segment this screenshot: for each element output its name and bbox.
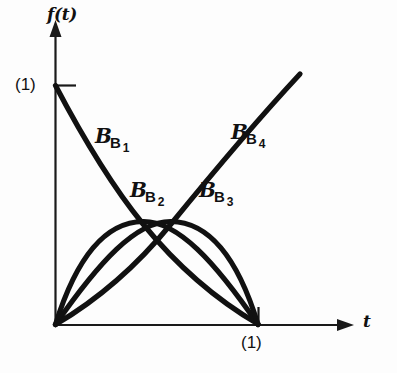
x-axis-label: t <box>363 313 371 330</box>
curve-label-b3-sub-b: B <box>214 188 225 205</box>
y-axis-tick-label: (1) <box>15 76 36 93</box>
curve-b4 <box>56 74 301 325</box>
curve-label-b2-sub-b: B <box>145 188 156 205</box>
curve-label-b3: BB3 <box>199 180 233 200</box>
curve-label-b1-sub-index: 1 <box>123 141 130 155</box>
curve-label-b2-sub-index: 2 <box>158 195 165 209</box>
curve-label-b1-sub-b: B <box>110 134 121 151</box>
curve-label-b4-sub-b: B <box>246 130 257 147</box>
curve-label-b4: BB4 <box>231 122 265 142</box>
x-axis-tick-label: (1) <box>241 334 262 351</box>
curve-label-b1: BB1 <box>95 126 129 146</box>
curve-label-b3-sub-index: 3 <box>227 195 234 209</box>
curve-label-b4-sub-index: 4 <box>259 137 266 151</box>
curve-label-b2: BB2 <box>130 180 164 200</box>
y-axis-label: f(t) <box>47 6 77 23</box>
figure-root: f(t) t (1) (1) BB1 BB2 BB3 BB4 <box>0 0 397 373</box>
x-axis-arrowhead <box>337 319 354 331</box>
